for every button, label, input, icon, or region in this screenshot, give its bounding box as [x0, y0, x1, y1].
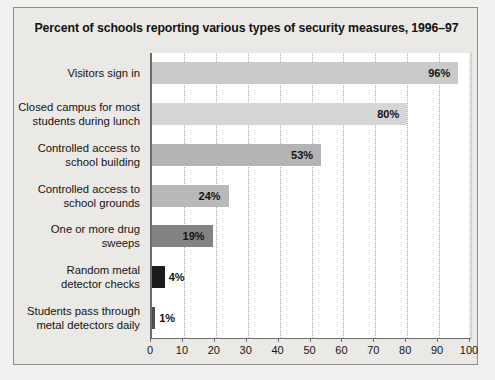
x-tick-20: [214, 338, 215, 342]
x-tick-100: [469, 338, 470, 342]
bar-value-label: 53%: [291, 149, 313, 161]
x-tick-label-60: 60: [335, 344, 347, 356]
bar-row: 24%: [152, 185, 469, 207]
bar-value-label: 80%: [377, 108, 399, 120]
category-label: Closed campus for most students during l…: [0, 100, 140, 128]
x-tick-label-0: 0: [147, 344, 153, 356]
x-axis-line: [150, 338, 471, 339]
x-tick-label-30: 30: [240, 344, 252, 356]
bar-row: 1%: [152, 307, 469, 329]
bar-row: 53%: [152, 144, 469, 166]
bar-row: 80%: [152, 103, 469, 125]
category-label: Controlled access to school grounds: [0, 182, 140, 210]
plot-area: 96%80%53%24%19%4%1%: [150, 53, 469, 338]
category-label: Random metal detector checks: [0, 263, 140, 291]
x-tick-label-100: 100: [460, 344, 478, 356]
bar-row: 96%: [152, 62, 469, 84]
chart-title: Percent of schools reporting various typ…: [14, 21, 479, 35]
bar: [152, 307, 155, 329]
x-tick-label-90: 90: [431, 344, 443, 356]
category-label: Controlled access to school building: [0, 141, 140, 169]
category-label: Visitors sign in: [0, 66, 140, 80]
category-label: Students pass through metal detectors da…: [0, 304, 140, 332]
x-tick-30: [246, 338, 247, 342]
x-tick-label-10: 10: [176, 344, 188, 356]
bar-value-label: 19%: [183, 230, 205, 242]
bar: [152, 62, 458, 84]
x-tick-80: [405, 338, 406, 342]
bar: [152, 103, 407, 125]
x-tick-label-80: 80: [399, 344, 411, 356]
x-tick-90: [437, 338, 438, 342]
x-tick-label-50: 50: [303, 344, 315, 356]
gridline-100: [471, 53, 472, 338]
x-tick-60: [341, 338, 342, 342]
x-tick-40: [278, 338, 279, 342]
bar-value-label: 4%: [169, 271, 185, 283]
x-tick-70: [373, 338, 374, 342]
figure-frame: Percent of schools reporting various typ…: [13, 7, 478, 365]
category-label: One or more drug sweeps: [0, 222, 140, 250]
x-tick-10: [182, 338, 183, 342]
x-tick-0: [150, 338, 151, 342]
bar-row: 4%: [152, 266, 469, 288]
chart-page: Percent of schools reporting various typ…: [0, 0, 495, 380]
x-tick-label-70: 70: [367, 344, 379, 356]
x-tick-50: [310, 338, 311, 342]
x-tick-label-40: 40: [271, 344, 283, 356]
x-tick-label-20: 20: [208, 344, 220, 356]
bar: [152, 266, 165, 288]
bar-value-label: 24%: [199, 190, 221, 202]
bar-value-label: 96%: [428, 67, 450, 79]
bar-row: 19%: [152, 225, 469, 247]
bar-value-label: 1%: [159, 312, 175, 324]
